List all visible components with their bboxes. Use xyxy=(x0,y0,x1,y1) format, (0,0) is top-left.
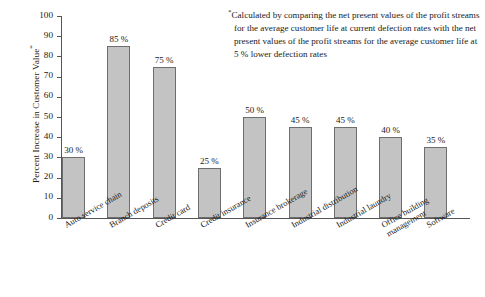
bar-group: 75 % xyxy=(153,16,176,218)
y-axis-tick-label: 50 xyxy=(44,111,53,121)
y-axis-tick-label: 0 xyxy=(48,212,53,222)
bar-value-label: 75 % xyxy=(155,55,174,65)
y-axis-title-asterisk: * xyxy=(28,45,36,49)
bar-value-label: 25 % xyxy=(200,156,219,166)
bar-value-label: 45 % xyxy=(291,115,310,125)
footnote: *Calculated by comparing the net present… xyxy=(228,8,482,61)
y-axis-tick-label: 80 xyxy=(44,50,53,60)
y-axis-tick-label: 70 xyxy=(44,70,53,80)
bar-value-label: 35 % xyxy=(427,135,446,145)
y-axis-tick-label: 30 xyxy=(44,151,53,161)
y-axis-tick-mark xyxy=(57,218,62,219)
bar-value-label: 50 % xyxy=(245,105,264,115)
y-axis-title: Percent Increase in Customer Value* xyxy=(28,7,40,222)
y-axis-tick-label: 100 xyxy=(39,10,53,20)
y-axis-tick-label: 10 xyxy=(44,191,53,201)
y-axis-tick-label: 40 xyxy=(44,131,53,141)
bar-group: 25 % xyxy=(198,16,221,218)
bar-value-label: 40 % xyxy=(381,125,400,135)
bar-value-label: 30 % xyxy=(64,145,83,155)
bar-value-label: 45 % xyxy=(336,115,355,125)
bar-value-label: 85 % xyxy=(109,34,128,44)
bar-chart: Percent Increase in Customer Value* 1009… xyxy=(0,0,485,297)
y-axis-tick-label: 90 xyxy=(44,30,53,40)
y-axis-title-text: Percent Increase in Customer Value xyxy=(31,49,41,183)
bar-group: 85 % xyxy=(107,16,130,218)
footnote-text: Calculated by comparing the net present … xyxy=(232,10,480,59)
y-axis-tick-label: 60 xyxy=(44,90,53,100)
bar-group: 30 % xyxy=(62,16,85,218)
y-axis-tick-label: 20 xyxy=(44,171,53,181)
